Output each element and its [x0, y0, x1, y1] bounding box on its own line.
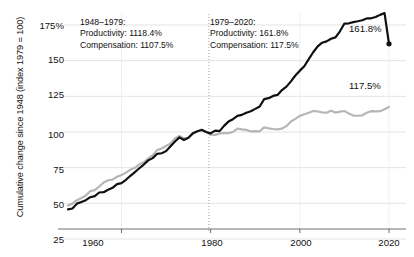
y-axis-tick-labels: 175% 150 125 100 75 50 25 — [0, 0, 64, 257]
annotation-1948-1979-productivity: Productivity: 1118.4% — [80, 28, 173, 39]
y-tick-125: 125 — [2, 90, 64, 100]
y-tick-150: 150 — [2, 55, 64, 65]
compensation-end-label: 117.5% — [349, 80, 381, 91]
y-tick-175: 175% — [2, 21, 64, 31]
annotation-1948-1979-title: 1948–1979: — [80, 17, 173, 28]
annotation-1979-2020-title: 1979–2020: — [210, 17, 299, 28]
productivity-compensation-chart: Cumulative change since 1948 (index 1979… — [0, 0, 414, 257]
y-tick-100: 100 — [2, 130, 64, 140]
x-tick-2000: 2000 — [271, 238, 331, 248]
annotation-1948-1979: 1948–1979: Productivity: 1118.4% Compens… — [80, 17, 173, 51]
annotation-1948-1979-compensation: Compensation: 1107.5% — [80, 40, 173, 51]
productivity-end-label: 161.8% — [349, 23, 382, 34]
y-tick-50: 50 — [2, 200, 64, 210]
annotation-1979-2020-productivity: Productivity: 161.8% — [210, 28, 299, 39]
y-tick-75: 75 — [2, 165, 64, 175]
x-tick-1960: 1960 — [63, 238, 123, 248]
x-tick-1980: 1980 — [182, 238, 242, 248]
x-tick-2020: 2020 — [359, 238, 414, 248]
y-tick-25: 25 — [2, 235, 64, 245]
annotation-1979-2020-compensation: Compensation: 117.5% — [210, 40, 299, 51]
annotation-1979-2020: 1979–2020: Productivity: 161.8% Compensa… — [210, 17, 299, 51]
